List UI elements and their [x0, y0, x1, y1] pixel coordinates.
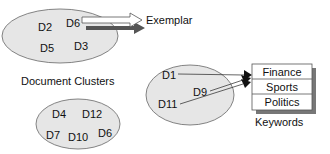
keywords-caption: Keywords: [255, 116, 304, 128]
exemplar-label: Exemplar: [146, 14, 193, 26]
doc-label: D10: [68, 131, 88, 143]
doc-label: D4: [52, 108, 66, 120]
clusters-caption: Document Clusters: [21, 75, 115, 87]
doc-label: D3: [74, 40, 88, 52]
keyword-item: Politics: [265, 96, 300, 108]
cluster-bottom: D4 D12 D7 D10 D6: [36, 99, 120, 149]
keyword-item: Finance: [262, 66, 301, 78]
doc-label: D7: [46, 129, 60, 141]
keyword-box: Finance Sports Politics: [252, 64, 316, 114]
doc-label: D1: [162, 69, 176, 81]
document-cluster-diagram: D2 D6 D5 D3 Exemplar Document Clusters D…: [0, 0, 330, 154]
doc-label: D11: [158, 98, 177, 110]
keyword-item: Sports: [266, 81, 298, 93]
doc-label: D2: [38, 21, 52, 33]
doc-label: D6: [98, 127, 112, 139]
doc-label: D12: [82, 108, 102, 120]
doc-label: D5: [40, 42, 54, 54]
doc-label: D6: [66, 17, 80, 29]
